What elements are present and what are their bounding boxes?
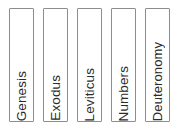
spine-label-genesis: Genesis bbox=[15, 67, 29, 121]
spine-diagram: Genesis Exodus Leviticus Numbers Deutero… bbox=[0, 0, 194, 130]
spine-label-exodus: Exodus bbox=[49, 71, 63, 121]
spine-box-leviticus[interactable]: Leviticus bbox=[77, 8, 102, 122]
spine-box-numbers[interactable]: Numbers bbox=[111, 8, 136, 122]
spine-label-numbers: Numbers bbox=[117, 62, 131, 121]
spine-label-deuteronomy: Deuteronomy bbox=[151, 38, 164, 121]
spine-box-deuteronomy[interactable]: Deuteronomy bbox=[145, 8, 170, 122]
spine-box-genesis[interactable]: Genesis bbox=[9, 8, 34, 122]
spine-box-exodus[interactable]: Exodus bbox=[43, 8, 68, 122]
spine-row: Genesis Exodus Leviticus Numbers Deutero… bbox=[0, 0, 194, 130]
spine-label-leviticus: Leviticus bbox=[83, 64, 97, 121]
